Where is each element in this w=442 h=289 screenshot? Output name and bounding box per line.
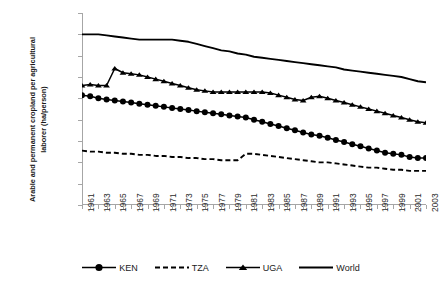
series-line-ken [82,95,426,158]
data-point-marker [341,139,347,145]
x-tick-mark [279,205,280,209]
legend-label: World [336,263,359,273]
data-point-marker [235,113,241,119]
x-tick-mark [295,205,296,209]
legend-item-uga[interactable]: UGA [226,262,283,273]
data-point-marker [308,132,314,138]
x-tick-mark [197,205,198,209]
x-tick-mark [287,205,288,209]
legend-swatch-tza [155,262,189,273]
data-point-marker [96,264,103,271]
legend-label: KEN [119,263,138,273]
x-tick-mark [410,205,411,209]
x-tick-mark [123,205,124,209]
data-point-marker [415,155,421,161]
data-point-marker [128,100,134,106]
legend-label: UGA [263,263,283,273]
data-point-marker [357,143,363,149]
data-point-marker [95,95,101,101]
data-point-marker [218,111,224,117]
data-point-marker [333,137,339,143]
legend-item-ken[interactable]: KEN [82,262,138,273]
x-tick-mark [107,205,108,209]
x-tick-mark [205,205,206,209]
x-tick-mark [426,205,427,209]
x-tick-label: 2003 [430,193,440,212]
x-tick-mark [352,205,353,209]
data-point-marker [407,154,413,160]
y-axis-title: Arable and permanent cropland per agricu… [28,25,49,215]
data-point-marker [185,107,191,113]
x-tick-mark [303,205,304,209]
series-line-tza [82,151,426,171]
x-tick-mark [328,205,329,209]
data-point-marker [120,99,126,105]
x-tick-mark [148,205,149,209]
x-tick-mark [311,205,312,209]
data-point-marker [169,105,175,111]
data-point-marker [194,108,200,114]
data-point-marker [325,135,331,141]
data-point-marker [202,109,208,115]
plot-area [82,13,426,205]
data-point-marker [300,129,306,135]
x-tick-mark [320,205,321,209]
x-tick-mark [377,205,378,209]
data-point-marker [82,92,85,98]
chart-legend: KENTZAUGAWorld [0,262,442,273]
x-tick-mark [270,205,271,209]
series-line-uga [82,68,426,122]
data-point-marker [398,152,404,158]
x-tick-mark [238,205,239,209]
x-tick-mark [90,205,91,209]
data-point-marker [145,102,151,108]
data-point-marker [267,121,273,127]
x-tick-mark [254,205,255,209]
legend-swatch-ken [82,262,116,273]
data-point-marker [104,96,110,102]
data-point-marker [226,112,232,118]
x-tick-mark [172,205,173,209]
x-tick-mark [188,205,189,209]
x-tick-mark [156,205,157,209]
data-point-marker [251,117,257,123]
x-tick-mark [385,205,386,209]
x-tick-mark [393,205,394,209]
data-point-marker [284,125,290,131]
x-tick-mark [262,205,263,209]
x-tick-mark [221,205,222,209]
data-point-marker [153,103,159,109]
data-point-marker [366,145,372,151]
x-tick-mark [246,205,247,209]
legend-item-tza[interactable]: TZA [155,262,209,273]
data-point-marker [87,93,93,99]
legend-swatch-uga [226,262,260,273]
data-point-marker [382,150,388,156]
data-point-marker [136,101,142,107]
x-tick-mark [131,205,132,209]
x-tick-mark [115,205,116,209]
data-point-marker [112,97,118,103]
x-tick-mark [401,205,402,209]
data-point-marker [243,115,249,121]
data-point-marker [210,110,216,116]
data-point-marker [390,151,396,157]
x-tick-mark [369,205,370,209]
data-point-marker [317,133,323,139]
x-tick-mark [82,205,83,209]
chart-container: Arable and permanent cropland per agricu… [0,0,442,289]
x-tick-mark [98,205,99,209]
legend-label: TZA [192,263,209,273]
data-point-marker [423,155,426,161]
x-tick-mark [344,205,345,209]
x-tick-mark [418,205,419,209]
legend-item-world[interactable]: World [299,262,359,273]
x-tick-mark [360,205,361,209]
x-tick-mark [139,205,140,209]
data-point-marker [259,119,265,125]
x-tick-mark [213,205,214,209]
data-point-marker [177,106,183,112]
data-point-marker [111,66,118,71]
data-point-marker [276,123,282,129]
data-point-marker [292,127,298,133]
